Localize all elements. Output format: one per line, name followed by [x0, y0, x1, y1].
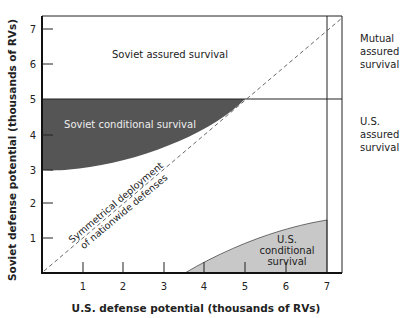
mutual-assured-label-2: assured [360, 46, 399, 57]
soviet-conditional-label: Soviet conditional survival [64, 119, 196, 130]
x-tick-7: 7 [324, 281, 330, 292]
us-conditional-label-1: U.S. [277, 234, 297, 245]
x-tick-2: 2 [120, 281, 126, 292]
y-tick-4: 4 [30, 130, 36, 141]
diagonal-label-1: Symmetrical deployment [66, 159, 165, 245]
y-tick-6: 6 [30, 59, 36, 70]
us-assured-label-3: survival [360, 142, 399, 153]
soviet-assured-label: Soviet assured survival [112, 49, 228, 60]
chart: 1 2 3 4 5 6 7 1 2 3 4 5 6 7 U.S. defense… [0, 0, 407, 318]
us-assured-label-1: U.S. [360, 116, 380, 127]
y-tick-7: 7 [30, 24, 36, 35]
y-tick-1: 1 [30, 233, 36, 244]
diagonal-label-2: of nationwide defenses [78, 172, 170, 251]
mutual-assured-label-3: survival [360, 59, 399, 70]
us-conditional-label-2: conditional [259, 245, 314, 256]
y-tick-3: 3 [30, 165, 36, 176]
soviet-conditional-region [42, 99, 245, 170]
x-tick-4: 4 [201, 281, 207, 292]
x-tick-6: 6 [283, 281, 289, 292]
y-tick-2: 2 [30, 198, 36, 209]
x-tick-5: 5 [242, 281, 248, 292]
x-tick-3: 3 [161, 281, 167, 292]
y-tick-5: 5 [30, 94, 36, 105]
us-conditional-label-3: survival [267, 256, 306, 267]
mutual-assured-label-1: Mutual [360, 33, 394, 44]
y-axis-label: Soviet defense potential (thousands of R… [6, 19, 18, 281]
x-axis-label: U.S. defense potential (thousands of RVs… [72, 302, 321, 314]
us-assured-label-2: assured [360, 129, 399, 140]
x-tick-1: 1 [80, 281, 86, 292]
